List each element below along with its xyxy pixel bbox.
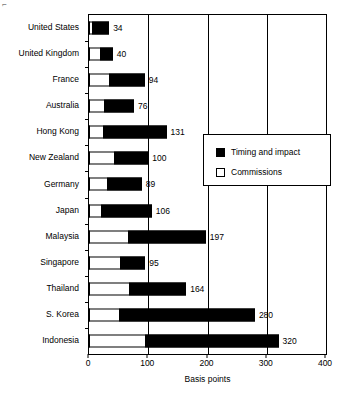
category-tick [85,302,89,303]
category-label: New Zealand [29,152,79,162]
corner-artifact: ⌐ [2,1,9,8]
bar-segment-timing-and-impact [107,178,142,191]
bar-segment-commissions [89,204,101,217]
bar-value-label: 280 [259,310,273,320]
category-label: Thailand [46,283,79,293]
legend-item-timing-and-impact: Timing and impact [216,142,330,162]
legend-swatch-empty-icon [216,168,225,177]
bar-row: 94 [89,67,326,93]
bar-row: 164 [89,276,326,302]
bar [89,230,206,243]
bar-segment-timing-and-impact [100,48,113,61]
bar-row: 40 [89,41,326,67]
category-tick [85,93,89,94]
category-tick [85,198,89,199]
bar-segment-timing-and-impact [109,74,145,87]
chart-legend: Timing and impact Commissions [203,134,331,186]
bar-segment-commissions [89,126,103,139]
bar-segment-commissions [89,334,145,347]
bar-value-label: 320 [283,336,297,346]
category-label: United Kingdom [19,48,79,58]
bar [89,334,279,347]
bar [89,126,167,139]
category-label: Singapore [40,257,79,267]
legend-item-commissions: Commissions [216,162,330,182]
bar-value-label: 164 [190,284,204,294]
bar-segment-timing-and-impact [104,100,134,113]
bar [89,100,134,113]
bar-segment-commissions [89,282,129,295]
bar-value-label: 106 [156,206,170,216]
bar-segment-commissions [89,74,109,87]
category-tick [85,224,89,225]
category-label: Indonesia [42,335,79,345]
bar [89,308,255,321]
bar-row: 197 [89,224,326,250]
bar-segment-commissions [89,178,107,191]
bar-segment-commissions [89,308,119,321]
bar [89,74,145,87]
category-label: Malaysia [45,231,79,241]
bar [89,256,145,269]
x-tick-label: 400 [318,358,332,369]
bar [89,204,152,217]
x-tick-label: 200 [199,358,213,369]
category-tick [85,328,89,329]
category-label: Hong Kong [36,126,79,136]
bar-segment-timing-and-impact [114,152,148,165]
bar-value-label: 34 [113,23,122,33]
bar-value-label: 131 [171,127,185,137]
legend-label: Timing and impact [231,147,300,157]
bar-segment-commissions [89,152,114,165]
bar [89,282,186,295]
bar [89,48,113,61]
bar-segment-timing-and-impact [128,230,206,243]
x-tick-label: 100 [140,358,154,369]
bar [89,22,109,35]
bar-value-label: 197 [210,232,224,242]
category-tick [85,119,89,120]
bar-segment-timing-and-impact [92,22,109,35]
bar-segment-timing-and-impact [119,308,255,321]
bar-segment-commissions [89,230,128,243]
bar [89,178,142,191]
x-tick-label: 0 [86,358,91,369]
bar-segment-timing-and-impact [120,256,145,269]
category-label: Germany [44,179,79,189]
legend-label: Commissions [231,167,282,177]
bar [89,152,148,165]
bar-segment-commissions [89,48,100,61]
bar-segment-timing-and-impact [101,204,152,217]
bar-row: 76 [89,93,326,119]
category-label: Australia [46,100,79,110]
category-label: Japan [56,205,79,215]
bar-row: 34 [89,15,326,41]
bar-value-label: 89 [146,179,155,189]
bar-segment-commissions [89,256,120,269]
category-tick [85,41,89,42]
bar-value-label: 100 [152,153,166,163]
bar-chart: ⌐ United StatesUnited KingdomFranceAustr… [0,0,349,411]
bar-value-label: 94 [149,75,158,85]
category-label: S. Korea [46,309,79,319]
bar-value-label: 40 [117,49,126,59]
bar-row: 95 [89,250,326,276]
bar-row: 106 [89,198,326,224]
bar-value-label: 76 [138,101,147,111]
bar-segment-timing-and-impact [103,126,166,139]
bar-segment-timing-and-impact [145,334,278,347]
category-tick [85,145,89,146]
bar-value-label: 95 [149,258,158,268]
bar-segment-timing-and-impact [129,282,186,295]
x-axis-tick-labels: 0100200300400 [88,358,327,370]
x-axis-title: Basis points [88,374,327,385]
category-tick [85,276,89,277]
bar-row: 280 [89,302,326,328]
category-tick [85,171,89,172]
category-tick [85,250,89,251]
category-axis-labels: United StatesUnited KingdomFranceAustral… [0,14,84,355]
bar-segment-commissions [89,100,104,113]
x-tick-label: 300 [259,358,273,369]
category-tick [85,67,89,68]
category-label: United States [28,22,79,32]
